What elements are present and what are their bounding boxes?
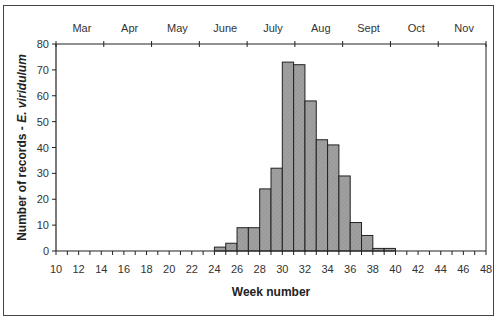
y-tick-label: 0 [43,245,49,257]
x-tick-label: 36 [344,263,356,275]
x-tick-label: 42 [412,263,424,275]
month-label: Nov [454,22,474,34]
bar-week-27 [248,228,259,251]
bar-week-30 [282,62,293,251]
bar-week-34 [328,145,339,251]
bar-week-28 [260,189,271,251]
x-tick-label: 46 [457,263,469,275]
x-tick-label: 20 [163,263,175,275]
y-tick-label: 60 [37,90,49,102]
y-tick-label: 40 [37,142,49,154]
bar-week-25 [226,243,237,251]
month-label: Mar [72,22,91,34]
x-tick-label: 22 [186,263,198,275]
x-tick-label: 12 [73,263,85,275]
month-label: July [263,22,283,34]
bar-week-31 [294,65,305,251]
x-tick-label: 32 [299,263,311,275]
bar-week-33 [316,140,327,251]
y-axis-title: Number of records - E. viridulum [15,54,29,241]
month-label: Apr [121,22,138,34]
bar-week-37 [362,235,373,251]
x-tick-label: 14 [95,263,107,275]
x-tick-label: 26 [231,263,243,275]
month-label: June [213,22,237,34]
x-tick-label: 48 [480,263,492,275]
month-label: Aug [311,22,331,34]
x-tick-label: 38 [367,263,379,275]
x-tick-label: 34 [321,263,333,275]
month-label: May [167,22,188,34]
histogram-chart: MarAprMayJuneJulyAugSeptOctNov0102030405… [0,0,499,323]
x-tick-label: 28 [254,263,266,275]
y-tick-label: 30 [37,167,49,179]
x-tick-label: 16 [118,263,130,275]
y-tick-label: 70 [37,64,49,76]
month-label: Oct [408,22,425,34]
x-tick-label: 30 [276,263,288,275]
bar-week-29 [271,168,282,251]
y-tick-label: 20 [37,193,49,205]
y-tick-label: 80 [37,38,49,50]
x-tick-label: 24 [208,263,220,275]
bars [214,62,395,251]
bar-week-36 [350,223,361,251]
x-tick-label: 44 [435,263,447,275]
month-label: Sept [357,22,380,34]
x-tick-label: 10 [50,263,62,275]
x-tick-label: 40 [389,263,401,275]
x-tick-label: 18 [140,263,152,275]
bar-week-26 [237,228,248,251]
x-axis-title: Week number [232,285,311,299]
bar-week-35 [339,176,350,251]
y-tick-label: 50 [37,116,49,128]
bar-week-32 [305,101,316,251]
y-tick-label: 10 [37,219,49,231]
